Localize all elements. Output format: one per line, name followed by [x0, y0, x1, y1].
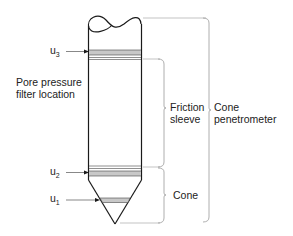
friction-line2: sleeve [170, 113, 204, 125]
cone-pen-line1: Cone [214, 101, 276, 113]
pore-pressure-label: Pore pressure filter location [16, 76, 82, 100]
pointer-arrows [66, 50, 100, 203]
friction-sleeve-bracket [158, 59, 166, 167]
label-u2-main: u [50, 165, 56, 177]
label-u3-main: u [50, 44, 56, 56]
u3-filter-band [89, 50, 141, 60]
cone-label: Cone [173, 189, 198, 201]
friction-line1: Friction [170, 101, 204, 113]
cone-bracket [158, 168, 166, 223]
label-u3: u3 [50, 44, 60, 58]
pore-pressure-line1: Pore pressure [16, 76, 82, 88]
label-u1-sub: 1 [56, 199, 60, 206]
pore-pressure-line2: filter location [16, 88, 82, 100]
penetrometer-body [89, 16, 142, 224]
cone-penetrometer-label: Cone penetrometer [214, 101, 276, 125]
label-u3-sub: 3 [56, 51, 60, 58]
label-u2: u2 [50, 165, 60, 179]
u1-filter-band [100, 198, 130, 203]
label-u2-sub: 2 [56, 172, 60, 179]
cone-pen-line2: penetrometer [214, 113, 276, 125]
label-u1-main: u [50, 192, 56, 204]
friction-sleeve-label: Friction sleeve [170, 101, 204, 125]
label-u1: u1 [50, 192, 60, 206]
u2-filter-band [89, 166, 141, 176]
